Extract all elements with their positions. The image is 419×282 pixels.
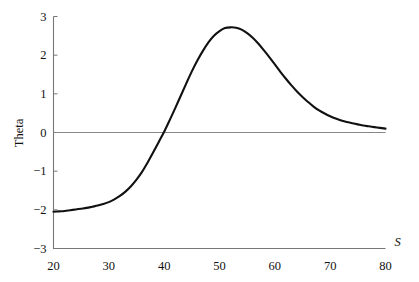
x-tick-label: 20 xyxy=(47,260,60,273)
y-axis-title: Theta xyxy=(13,118,26,146)
data-line-theta xyxy=(54,27,386,211)
y-tick-label: 3 xyxy=(40,10,46,23)
chart-plot-area xyxy=(0,0,419,282)
y-tick-label: −3 xyxy=(33,242,46,255)
chart-container: 3210−1−2−3 20304050607080 Theta S xyxy=(0,0,419,282)
x-tick-label: 70 xyxy=(324,260,337,273)
x-tick-label: 60 xyxy=(269,260,282,273)
x-axis-title: S xyxy=(395,236,401,249)
x-tick-label: 50 xyxy=(213,260,226,273)
x-tick-label: 80 xyxy=(379,260,392,273)
theta-curve xyxy=(54,27,386,211)
y-tick-label: 1 xyxy=(40,88,46,101)
y-tick-label: 0 xyxy=(40,126,46,139)
x-tick-label: 30 xyxy=(103,260,116,273)
y-tick-label: −1 xyxy=(33,165,46,178)
x-tick-label: 40 xyxy=(158,260,171,273)
y-tick-label: −2 xyxy=(33,204,46,217)
y-tick-label: 2 xyxy=(40,49,46,62)
